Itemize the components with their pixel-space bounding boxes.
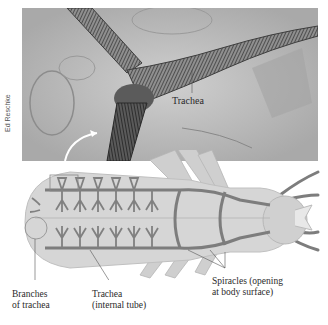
branches-label: Branches of trachea [12, 289, 50, 311]
spiracles-label-line2: at body surface) [212, 287, 283, 298]
branches-label-line2: of trachea [12, 300, 50, 311]
trachea-label-line1: Trachea [92, 289, 146, 300]
micrograph-photo: Trachea [22, 8, 318, 161]
insect-larva-diagram [0, 150, 328, 280]
trachea-label-line2: (internal tube) [92, 300, 146, 311]
photo-trachea-label: Trachea [172, 95, 204, 106]
trachea-label: Trachea (internal tube) [92, 289, 146, 311]
larva-body [25, 172, 300, 268]
spiracles-label-line1: Spiracles (opening [212, 276, 283, 287]
photo-credit: Ed Reschke [4, 94, 11, 132]
spiracles-label: Spiracles (opening at body surface) [212, 276, 283, 298]
trachea-micrograph [22, 8, 318, 161]
branches-label-line1: Branches [12, 289, 50, 300]
